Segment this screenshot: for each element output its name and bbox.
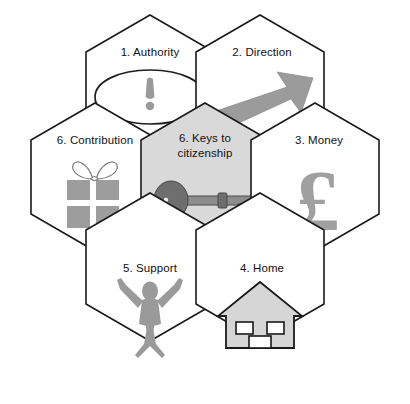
honeycomb-svg: 1. Authority 2. Direction 6. Contributio…	[0, 0, 410, 404]
hex-label-keys-to-citizenship-line2: citizenship	[178, 147, 233, 159]
hex-label-support: 5. Support	[123, 262, 178, 274]
hex-label-contribution: 6. Contribution	[57, 134, 133, 146]
hex-label-direction: 2. Direction	[232, 46, 291, 58]
hex-label-authority: 1. Authority	[121, 46, 180, 58]
hex-label-money: 3. Money	[295, 134, 343, 146]
hex-label-keys-to-citizenship-line1: 6. Keys to	[179, 132, 231, 144]
hex-label-home: 4. Home	[240, 262, 284, 274]
hexagon-diagram: 1. Authority 2. Direction 6. Contributio…	[0, 0, 410, 404]
